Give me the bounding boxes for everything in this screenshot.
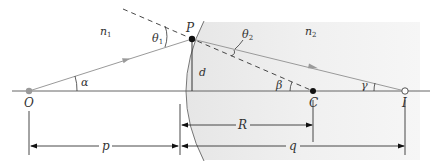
label-q: q [289,139,297,153]
medium-2-region [180,0,425,160]
label-gamma: γ [361,79,368,92]
alpha-arc [75,76,77,91]
medium-1-label: n1 [100,25,112,39]
incident-ray-arrow-icon [122,58,130,63]
label-O: O [24,96,34,110]
label-theta1: θ1 [152,32,163,46]
theta1-arc [165,26,167,47]
label-alpha: α [81,76,89,89]
incident-ray [29,39,192,91]
label-R: R [237,118,247,132]
label-C: C [309,96,318,110]
label-d: d [199,66,206,79]
label-p: p [102,139,110,153]
label-I: I [401,96,407,110]
image-point-I [402,88,408,94]
label-P: P [185,21,195,35]
label-beta: β [275,79,282,92]
center-point-C [310,88,316,94]
refraction-diagram: n1 n2 P O C I θ1 θ2 α β γ d p R q [0,0,433,165]
object-point-O [26,88,32,94]
point-P [189,36,195,42]
